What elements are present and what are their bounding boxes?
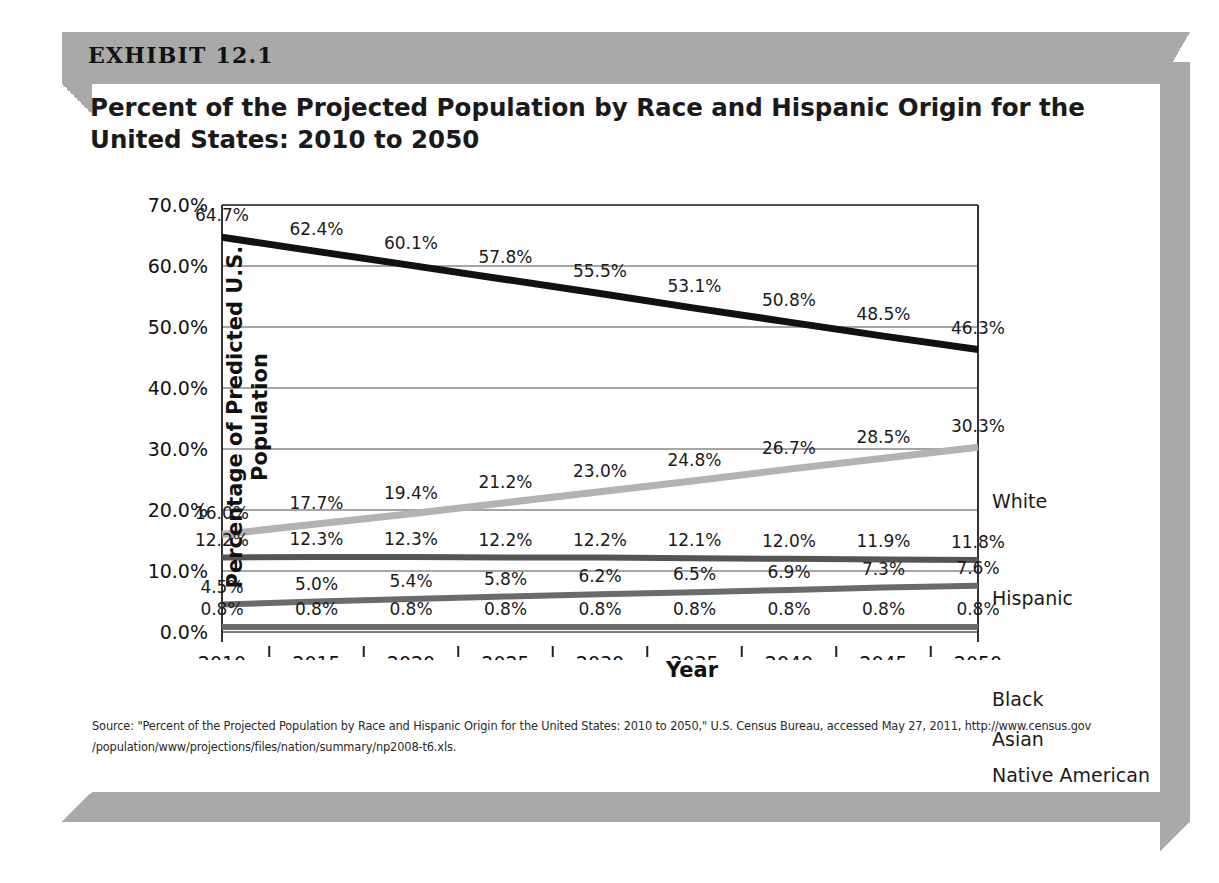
source-note: Source: "Percent of the Projected Popula… bbox=[92, 716, 1150, 758]
data-label: 11.9% bbox=[856, 531, 910, 551]
data-label: 17.7% bbox=[289, 493, 343, 513]
y-tick-label: 50.0% bbox=[148, 316, 208, 338]
data-label: 23.0% bbox=[573, 461, 627, 481]
data-label: 4.5% bbox=[200, 577, 243, 597]
data-label: 55.5% bbox=[573, 261, 627, 281]
bottom-left-bevel bbox=[62, 792, 92, 822]
data-label: 7.6% bbox=[956, 558, 999, 578]
bottom-right-bevel bbox=[1160, 822, 1190, 852]
data-label: 57.8% bbox=[478, 247, 532, 267]
data-label: 12.2% bbox=[195, 530, 249, 550]
y-tick-label: 10.0% bbox=[148, 560, 208, 582]
y-tick-label: 30.0% bbox=[148, 438, 208, 460]
data-label: 16.0% bbox=[195, 503, 249, 523]
data-label: 0.8% bbox=[389, 599, 432, 619]
bottom-shadow-band bbox=[92, 792, 1190, 822]
y-axis-tick-labels: 0.0%10.0%20.0%30.0%40.0%50.0%60.0%70.0% bbox=[148, 194, 208, 643]
y-tick-label: 0.0% bbox=[160, 621, 208, 643]
data-label: 50.8% bbox=[762, 290, 816, 310]
line-chart: 0.0%10.0%20.0%30.0%40.0%50.0%60.0%70.0% … bbox=[92, 160, 1160, 660]
data-label: 0.8% bbox=[484, 599, 527, 619]
data-label: 12.3% bbox=[289, 529, 343, 549]
legend-label-native-american: Native American bbox=[992, 764, 1150, 786]
data-label: 6.9% bbox=[767, 562, 810, 582]
data-label: 0.8% bbox=[200, 599, 243, 619]
y-tick-label: 60.0% bbox=[148, 255, 208, 277]
data-label: 12.2% bbox=[573, 530, 627, 550]
data-label: 53.1% bbox=[667, 276, 721, 296]
left-bevel bbox=[62, 84, 92, 114]
data-label: 5.8% bbox=[484, 569, 527, 589]
data-label: 0.8% bbox=[295, 599, 338, 619]
data-label: 28.5% bbox=[856, 427, 910, 447]
legend-label-hispanic: Hispanic bbox=[992, 587, 1073, 609]
right-shadow-band bbox=[1160, 62, 1190, 822]
data-label: 46.3% bbox=[951, 318, 1005, 338]
legend-label-black: Black bbox=[992, 688, 1043, 710]
data-label: 0.8% bbox=[862, 599, 905, 619]
data-label: 6.2% bbox=[578, 566, 621, 586]
data-label: 19.4% bbox=[384, 483, 438, 503]
data-label: 12.3% bbox=[384, 529, 438, 549]
data-label: 60.1% bbox=[384, 233, 438, 253]
x-axis-title: Year bbox=[314, 658, 1070, 682]
exhibit-label: EXHIBIT 12.1 bbox=[88, 42, 274, 68]
data-label: 0.8% bbox=[578, 599, 621, 619]
data-label: 5.4% bbox=[389, 571, 432, 591]
data-label: 64.7% bbox=[195, 205, 249, 225]
page-title: Percent of the Projected Population by R… bbox=[90, 92, 1140, 156]
data-label: 12.2% bbox=[478, 530, 532, 550]
y-tick-label: 40.0% bbox=[148, 377, 208, 399]
data-label: 30.3% bbox=[951, 416, 1005, 436]
data-label: 7.3% bbox=[862, 559, 905, 579]
data-label: 12.0% bbox=[762, 531, 816, 551]
data-label: 5.0% bbox=[295, 574, 338, 594]
data-label: 26.7% bbox=[762, 438, 816, 458]
data-label: 6.5% bbox=[673, 564, 716, 584]
data-label: 48.5% bbox=[856, 304, 910, 324]
chart-container: Percentage of Predicted U.S. Population … bbox=[92, 160, 1160, 690]
data-label: 0.8% bbox=[673, 599, 716, 619]
data-label: 21.2% bbox=[478, 472, 532, 492]
series-line-white bbox=[222, 237, 978, 349]
data-label: 11.8% bbox=[951, 532, 1005, 552]
data-label: 12.1% bbox=[667, 530, 721, 550]
data-label: 24.8% bbox=[667, 450, 721, 470]
x-tick-label: 2010 bbox=[198, 652, 246, 660]
data-label: 62.4% bbox=[289, 219, 343, 239]
data-label: 0.8% bbox=[767, 599, 810, 619]
legend-label-white: White bbox=[992, 490, 1047, 512]
